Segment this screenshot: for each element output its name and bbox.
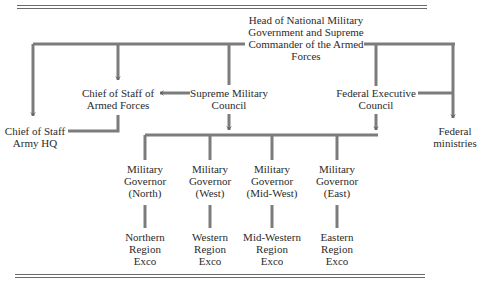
node-military-governor-north: Military Governor (North) [120,163,170,199]
node-midwestern-region-exco: Mid-Western Region Exco [239,231,305,267]
node-text-line: Commander of the Armed [245,38,367,50]
node-text-line: Exco [312,255,362,267]
node-federal-executive-council: Federal Executive Council [334,87,418,111]
node-text-line: Exco [185,255,235,267]
node-federal-ministries: Federal ministries [430,125,480,149]
node-text-line: Mid-Western [239,231,305,243]
node-text-line: Armed Forces [76,99,160,111]
node-text-line: Governor [120,175,170,187]
node-text-line: Government and Supreme [245,26,367,38]
node-text-line: Council [190,99,268,111]
node-text-line: ministries [430,137,480,149]
node-text-line: Chief of Staff of [76,87,160,99]
node-text-line: Region [239,243,305,255]
node-text-line: Federal Executive [334,87,418,99]
node-text-line: Supreme Military [190,87,268,99]
node-head-of-government: Head of National Military Government and… [245,14,367,62]
node-chief-of-staff-army-hq: Chief of Staff Army HQ [2,125,68,149]
node-text-line: Western [185,231,235,243]
node-text-line: Head of National Military [245,14,367,26]
node-text-line: Federal [430,125,480,137]
node-text-line: Military [312,163,362,175]
node-text-line: Council [334,99,418,111]
node-eastern-region-exco: Eastern Region Exco [312,231,362,267]
node-text-line: Chief of Staff [2,125,68,137]
node-chief-of-staff-armed-forces: Chief of Staff of Armed Forces [76,87,160,111]
node-text-line: Governor [242,175,302,187]
node-text-line: (West) [185,187,235,199]
node-text-line: Region [185,243,235,255]
node-text-line: Military [120,163,170,175]
node-text-line: Governor [185,175,235,187]
node-western-region-exco: Western Region Exco [185,231,235,267]
node-military-governor-east: Military Governor (East) [312,163,362,199]
node-text-line: Army HQ [2,137,68,149]
node-text-line: (North) [120,187,170,199]
node-text-line: Governor [312,175,362,187]
edge-cos-armed-to-army-hq [68,115,118,131]
node-text-line: Exco [239,255,305,267]
node-text-line: (Mid-West) [242,187,302,199]
organization-chart: Head of National Military Government and… [0,0,484,283]
node-text-line: Region [312,243,362,255]
node-text-line: (East) [312,187,362,199]
node-text-line: Forces [245,50,367,62]
node-text-line: Northern [120,231,170,243]
node-text-line: Military [185,163,235,175]
node-text-line: Military [242,163,302,175]
node-text-line: Exco [120,255,170,267]
node-military-governor-west: Military Governor (West) [185,163,235,199]
node-northern-region-exco: Northern Region Exco [120,231,170,267]
node-text-line: Region [120,243,170,255]
node-supreme-military-council: Supreme Military Council [190,87,268,111]
node-military-governor-midwest: Military Governor (Mid-West) [242,163,302,199]
node-text-line: Eastern [312,231,362,243]
